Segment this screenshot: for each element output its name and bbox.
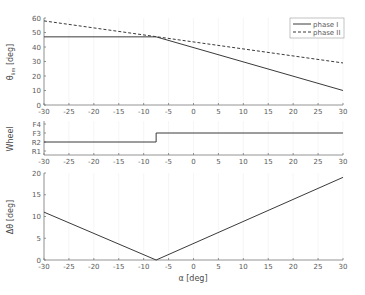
x-tick-label: -20 xyxy=(88,263,99,271)
y-tick-label: 0 xyxy=(37,102,41,110)
x-tick-label: 10 xyxy=(239,263,248,271)
legend-label-phase-1: phase I xyxy=(313,21,338,29)
x-tick-label: 30 xyxy=(339,158,348,166)
x-tick-label: 10 xyxy=(239,158,248,166)
bot-y-axis-label: Δθ [deg] xyxy=(6,200,15,234)
x-tick-label: 20 xyxy=(289,108,298,116)
x-tick-label: 25 xyxy=(314,263,323,271)
x-tick-label: 10 xyxy=(239,108,248,116)
x-tick-label: -15 xyxy=(113,108,124,116)
mid-y-axis-label: Wheel xyxy=(6,126,15,151)
x-tick-label: 25 xyxy=(314,158,323,166)
y-tick-label: F3 xyxy=(33,130,41,138)
x-tick-label: -10 xyxy=(138,263,149,271)
delta-theta-plot: -30-25-20-15-10-505101520253005101520 xyxy=(32,170,347,272)
x-tick-label: 15 xyxy=(264,263,273,271)
x-tick-label: -15 xyxy=(113,158,124,166)
x-tick-label: 30 xyxy=(339,263,348,271)
x-axis-label: α [deg] xyxy=(178,274,207,283)
top-y-axis-label: θlim [deg] xyxy=(6,44,16,80)
y-tick-label: 15 xyxy=(32,191,41,199)
x-tick-label: 0 xyxy=(191,158,195,166)
x-tick-label: -25 xyxy=(63,263,74,271)
x-tick-label: -20 xyxy=(88,158,99,166)
x-tick-label: -5 xyxy=(165,158,172,166)
y-tick-label: 0 xyxy=(37,257,41,265)
x-tick-label: -25 xyxy=(63,158,74,166)
y-tick-label: 10 xyxy=(32,213,41,221)
x-tick-label: 15 xyxy=(264,158,273,166)
y-tick-label: 10 xyxy=(32,87,41,95)
x-tick-label: 0 xyxy=(191,108,195,116)
y-tick-label: R2 xyxy=(32,139,41,147)
y-tick-label: R1 xyxy=(32,148,41,156)
x-tick-label: 25 xyxy=(314,108,323,116)
wheel-plot: -30-25-20-15-10-5051015202530R1R2F3F4 xyxy=(32,121,348,167)
x-tick-label: -30 xyxy=(38,158,49,166)
figure: -30-25-20-15-10-505101520253001020304050… xyxy=(0,0,365,295)
x-tick-label: 5 xyxy=(216,263,220,271)
x-tick-label: -5 xyxy=(165,263,172,271)
x-tick-label: -5 xyxy=(165,108,172,116)
x-tick-label: 5 xyxy=(216,108,220,116)
y-tick-label: 50 xyxy=(32,29,41,37)
x-tick-label: -25 xyxy=(63,108,74,116)
y-tick-label: 40 xyxy=(32,44,41,52)
x-tick-label: 20 xyxy=(289,263,298,271)
y-tick-label: 5 xyxy=(37,235,41,243)
x-tick-label: -15 xyxy=(113,263,124,271)
y-tick-label: 30 xyxy=(32,58,41,66)
y-tick-label: 20 xyxy=(32,73,41,81)
x-tick-label: 5 xyxy=(216,158,220,166)
legend: phase I phase II xyxy=(290,18,344,38)
x-tick-label: 20 xyxy=(289,158,298,166)
x-tick-label: 15 xyxy=(264,108,273,116)
x-tick-label: 0 xyxy=(191,263,195,271)
y-tick-label: 60 xyxy=(32,15,41,23)
legend-label-phase-2: phase II xyxy=(313,29,340,37)
y-tick-label: 20 xyxy=(32,170,41,178)
x-tick-label: -10 xyxy=(138,158,149,166)
y-tick-label: F4 xyxy=(33,121,42,129)
x-tick-label: -10 xyxy=(138,108,149,116)
x-tick-label: 30 xyxy=(339,108,348,116)
x-tick-label: -20 xyxy=(88,108,99,116)
